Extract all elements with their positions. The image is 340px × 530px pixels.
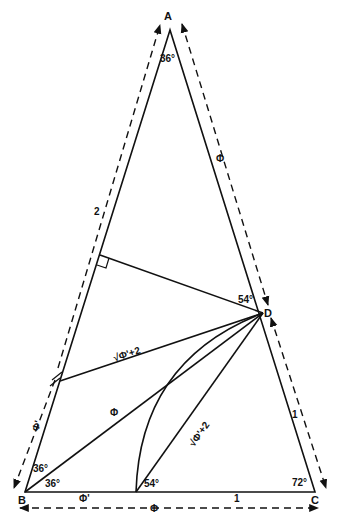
- vertex-a-label: A: [164, 10, 172, 22]
- length-ad: Φ: [216, 153, 224, 164]
- line-bd: [25, 313, 263, 492]
- triangle-abc: [25, 30, 315, 492]
- length-be: Φ': [79, 493, 90, 504]
- angle-e: 54°: [144, 478, 159, 489]
- dim-right-upper: [182, 24, 268, 305]
- line-ed: [136, 313, 263, 492]
- dim-right-lower: [271, 318, 326, 488]
- angle-a: 36°: [160, 53, 175, 64]
- dim-left-upper: [58, 25, 160, 368]
- angle-c: 72°: [292, 477, 307, 488]
- angle-b-lower: 36°: [45, 478, 60, 489]
- length-bd: Φ: [110, 407, 118, 418]
- line-df: [60, 313, 263, 381]
- length-ed: √Φ'+2: [187, 419, 212, 448]
- golden-triangle-diagram: A B C D 36° 54° 36° 36° 54° 72° 2 Φ 1 Φ …: [0, 0, 340, 530]
- vertex-b-label: B: [18, 494, 26, 506]
- length-dc: 1: [292, 409, 298, 420]
- vertex-c-label: C: [311, 494, 319, 506]
- angle-d: 54°: [238, 294, 253, 305]
- length-b-lower: Φ': [30, 419, 44, 433]
- length-ab: 2: [94, 206, 100, 217]
- angle-b-upper: 36°: [33, 463, 48, 474]
- length-fd: √Φ'+2: [112, 344, 142, 363]
- length-bc-outer: Φ: [150, 503, 158, 514]
- vertex-d-label: D: [264, 307, 272, 319]
- length-ec: 1: [234, 493, 240, 504]
